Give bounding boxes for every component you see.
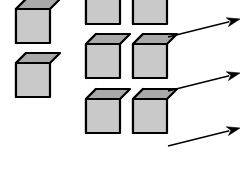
right-cube-r2c2-front-face	[133, 44, 167, 78]
right-cube-r3c1-front-face	[86, 99, 120, 133]
right-cube-r3c2-front-face	[133, 99, 167, 133]
left-cube-2-front-face	[16, 63, 50, 97]
figure-canvas	[0, 0, 249, 173]
right-cube-r1c2-front-face	[133, 0, 167, 24]
right-cube-r1c1-front-face	[86, 0, 120, 24]
right-cube-r2c1-front-face	[86, 44, 120, 78]
left-cube-1-front-face	[16, 9, 50, 43]
cube-diagram	[0, 0, 249, 173]
